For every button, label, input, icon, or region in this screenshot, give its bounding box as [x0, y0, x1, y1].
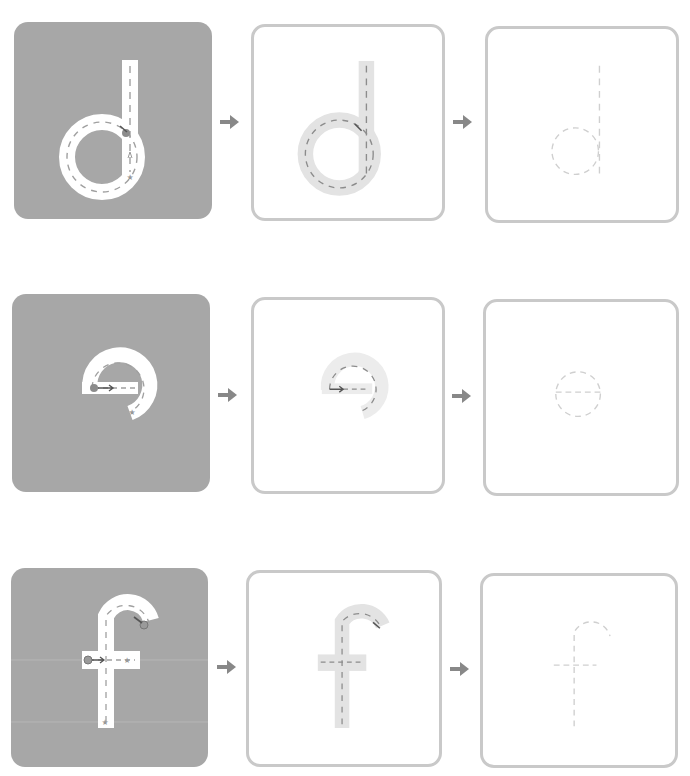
- letter-e-dashed-trace-icon: [486, 302, 676, 493]
- right-arrow-icon: [217, 387, 239, 403]
- letter-e-guided-trace-icon: ★: [12, 294, 210, 492]
- right-arrow-icon: [452, 114, 474, 130]
- right-arrow-icon: [449, 661, 471, 677]
- svg-text:★: ★: [101, 718, 108, 727]
- right-arrow-icon: [219, 114, 241, 130]
- letter-d-shaded-trace-icon: [254, 27, 442, 218]
- letter-d-shaded-card: [251, 24, 445, 221]
- letter-f-guided-trace-icon: ★ ★: [11, 568, 208, 767]
- letter-e-shaded-card: [251, 297, 445, 494]
- letter-f-shaded-trace-icon: [249, 573, 439, 764]
- letter-e-shaded-trace-icon: [254, 300, 442, 491]
- svg-text:★: ★: [128, 408, 135, 417]
- letter-d-dashed-trace-icon: [488, 29, 676, 220]
- letter-e-guided-card: ★: [12, 294, 210, 492]
- svg-text:★: ★: [123, 656, 130, 665]
- letter-f-shaded-card: [246, 570, 442, 767]
- letter-f-dashed-card: [480, 573, 678, 768]
- letter-d-guided-card: ★: [14, 22, 212, 219]
- letter-e-dashed-card: [483, 299, 679, 496]
- row-letter-f: f: [0, 0, 1, 1]
- letter-f-dashed-trace-icon: [483, 576, 675, 765]
- right-arrow-icon: [451, 388, 473, 404]
- letter-d-dashed-card: [485, 26, 679, 223]
- letter-f-guided-card: ★ ★: [11, 568, 208, 767]
- right-arrow-icon: [216, 659, 238, 675]
- row-letter-e: e: [0, 0, 1, 1]
- letter-d-guided-trace-icon: ★: [14, 22, 212, 219]
- svg-text:★: ★: [126, 173, 133, 182]
- row-letter-d: d: [0, 0, 1, 1]
